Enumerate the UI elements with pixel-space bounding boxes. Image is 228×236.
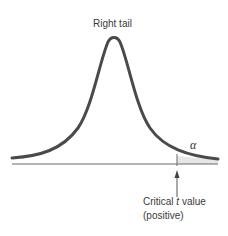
alpha-label: α bbox=[190, 138, 196, 153]
arrow-up-icon bbox=[175, 170, 180, 178]
critical-value-label-line1: Critical t value bbox=[143, 195, 206, 209]
critical-prefix: Critical bbox=[143, 196, 176, 207]
critical-value-label-line2: (positive) bbox=[143, 209, 206, 223]
critical-value-label: Critical t value (positive) bbox=[143, 195, 206, 223]
distribution-curve bbox=[12, 38, 218, 160]
right-tail-title: Right tail bbox=[93, 18, 132, 29]
critical-suffix: value bbox=[179, 196, 206, 207]
